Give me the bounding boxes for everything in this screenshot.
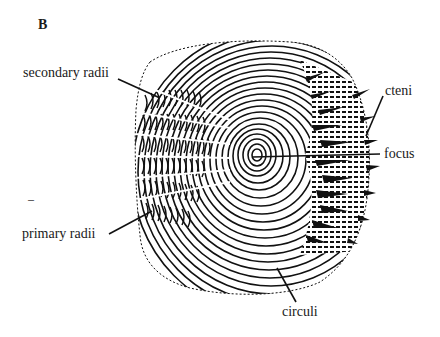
fish-scale-illustration — [0, 0, 440, 337]
stray-mark: – — [28, 193, 34, 205]
label-circuli: circuli — [282, 305, 318, 319]
label-cteni: cteni — [385, 84, 412, 98]
figure-canvas: B secondary radii cteni focus – primary … — [0, 0, 440, 337]
label-secondary-radii: secondary radii — [23, 66, 109, 80]
leader-cteni — [366, 96, 383, 136]
leader-primary-radii — [109, 211, 152, 234]
panel-letter: B — [38, 18, 47, 32]
label-focus: focus — [384, 147, 414, 161]
circuli-rings — [132, 28, 418, 318]
label-primary-radii: primary radii — [22, 227, 95, 241]
